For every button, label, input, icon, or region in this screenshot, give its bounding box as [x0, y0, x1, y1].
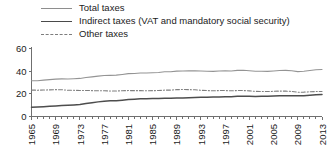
x-tick-label: 1993: [196, 124, 207, 145]
x-tick-label: 1977: [99, 124, 110, 145]
chart-svg: 0204060 19651969197319771981198519891993…: [0, 42, 328, 151]
x-tick-label: 2005: [268, 124, 279, 145]
x-tick-label: 2001: [244, 124, 255, 145]
x-tick-label: 1997: [220, 124, 231, 145]
chart-legend: Total taxes Indirect taxes (VAT and mand…: [40, 1, 328, 40]
legend-label-total: Total taxes: [73, 2, 124, 13]
x-tick-labels: 1965196919731977198119851989199319972001…: [26, 124, 328, 145]
x-tick-label: 2013: [317, 124, 328, 145]
y-tick-label: 60: [16, 43, 27, 54]
x-tick-label: 1989: [171, 124, 182, 145]
legend-item-total: Total taxes: [40, 1, 328, 14]
y-tick-labels: 0204060: [16, 43, 27, 122]
x-tick-label: 1981: [123, 124, 134, 145]
x-tick-label: 1985: [147, 124, 158, 145]
legend-swatch-indirect-icon: [40, 15, 73, 26]
legend-label-indirect: Indirect taxes (VAT and mandatory social…: [73, 15, 290, 26]
series-line-other: [32, 90, 323, 93]
legend-item-indirect: Indirect taxes (VAT and mandatory social…: [40, 14, 328, 27]
x-axis-group: 1965196919731977198119851989199319972001…: [26, 117, 328, 146]
x-tick-label: 1973: [75, 124, 86, 145]
legend-swatch-total-icon: [40, 2, 73, 13]
legend-swatch-other-icon: [40, 28, 73, 39]
x-tick-label: 2009: [292, 124, 303, 145]
series-group: [32, 69, 323, 107]
x-tick-label: 1969: [50, 124, 61, 145]
legend-item-other: Other taxes: [40, 27, 328, 40]
legend-label-other: Other taxes: [73, 28, 128, 39]
x-tick-label: 1965: [26, 124, 37, 145]
plot-area: 0204060 19651969197319771981198519891993…: [0, 42, 328, 151]
series-line-total: [32, 69, 323, 80]
y-tick-label: 0: [21, 111, 26, 122]
y-axis-group: 0204060: [16, 43, 32, 122]
y-tick-label: 20: [16, 88, 27, 99]
chart-figure: Total taxes Indirect taxes (VAT and mand…: [0, 0, 328, 151]
x-tick-marks: [32, 117, 323, 121]
series-line-indirect: [32, 95, 323, 108]
y-tick-label: 40: [16, 66, 27, 77]
